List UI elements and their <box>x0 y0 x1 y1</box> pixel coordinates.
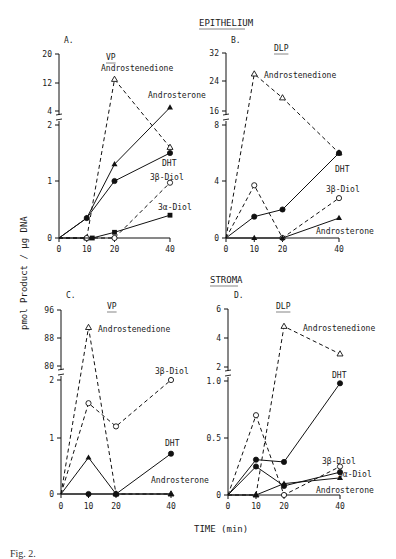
3beta-diol-marker-icon <box>253 413 258 418</box>
series-label-dht: DHT <box>335 165 350 174</box>
androsterone-marker-icon <box>167 104 173 109</box>
y-tick-label: 32 <box>209 49 219 58</box>
series-label-3beta-diol: 3β-Diol <box>322 457 356 466</box>
y-tick-label: 4 <box>216 334 221 343</box>
dht-marker-icon <box>252 214 257 219</box>
dht-marker-icon <box>112 178 117 183</box>
dht-marker-icon <box>281 459 286 464</box>
panel-c-stroma-vp: 0128088960102040C.VPAndrostenedione3β-Di… <box>44 291 209 511</box>
androsterone-marker-icon <box>86 454 92 459</box>
series-label-androstenedione: Androstenedione <box>98 325 170 334</box>
y-tick-label: 1.0 <box>207 377 222 386</box>
androstenedione-marker-icon <box>86 324 92 329</box>
3alpha-diol-marker-icon <box>168 213 173 218</box>
section-title-stroma: STROMA <box>210 275 243 285</box>
androstenedione-marker-icon <box>280 95 286 100</box>
panel-title: VP <box>106 53 116 62</box>
androsterone-marker-icon <box>336 215 342 220</box>
panel-title: VP <box>107 302 117 311</box>
y-tick-label: 20 <box>42 50 52 59</box>
panel-letter: D. <box>234 291 244 300</box>
series-3alpha-diol: 3α-Diol <box>59 203 192 240</box>
dht-marker-icon <box>337 381 342 386</box>
panel-letter: A. <box>64 36 74 45</box>
series-label-androsterone: Androsterone <box>316 227 374 236</box>
y-tick-label: 0 <box>47 234 52 243</box>
dht-marker-icon <box>86 491 91 496</box>
series-3beta-diol: 3β-Diol <box>228 413 356 498</box>
y-tick-label: 16 <box>209 107 219 116</box>
series-label-3alpha-diol: 3α-Diol <box>158 203 192 212</box>
x-tick-label: 40 <box>165 245 175 254</box>
axis-break-icon <box>225 370 231 371</box>
x-tick-label: 0 <box>226 502 231 511</box>
y-tick-label: 80 <box>44 362 54 371</box>
x-tick-label: 10 <box>249 245 259 254</box>
y-tick-label: 0 <box>216 491 221 500</box>
series-androstenedione: Androstenedione <box>226 71 342 238</box>
3beta-diol-marker-icon <box>281 492 286 497</box>
y-tick-label: 6 <box>216 305 221 314</box>
series-label-dht: DHT <box>165 439 180 448</box>
y-tick-label: 4 <box>47 107 52 116</box>
series-label-3beta-diol: 3β-Diol <box>326 185 360 194</box>
series-androsterone: Androsterone <box>59 91 206 238</box>
y-tick-label: 24 <box>209 77 219 86</box>
series-label-androstenedione: Androstenedione <box>101 64 173 73</box>
dht-marker-icon <box>168 451 173 456</box>
section-title-epithelium: EPITHELIUM <box>199 18 254 28</box>
3alpha-diol-marker-icon <box>253 464 258 469</box>
y-tick-label: 2 <box>49 376 54 385</box>
series-dht: DHT <box>59 150 177 238</box>
panel-title: DLP <box>276 302 291 311</box>
x-tick-label: 20 <box>278 245 288 254</box>
series-androstenedione: Androstenedione <box>61 324 174 496</box>
series-dht: DHT <box>226 150 350 238</box>
panel-letter: B. <box>231 36 241 45</box>
3alpha-diol-marker-icon <box>90 236 95 241</box>
x-tick-label: 20 <box>111 502 121 511</box>
axis-break-icon <box>56 114 62 115</box>
y-tick-label: 8 <box>214 121 219 130</box>
figure-caption: Fig. 2. <box>10 548 36 559</box>
series-androsterone: Androsterone <box>61 454 209 496</box>
y-tick-label: 0 <box>214 234 219 243</box>
panel-d-stroma-dlp: 00.51.02460102040D.DLPAndrostenedioneDHT… <box>207 291 376 511</box>
dht-marker-icon <box>253 457 258 462</box>
y-tick-label: 2 <box>216 363 221 372</box>
y-tick-label: 1 <box>49 434 54 443</box>
x-axis-label: TIME (min) <box>194 524 248 534</box>
axis-break-icon <box>58 369 64 370</box>
3beta-diol-marker-icon <box>168 377 173 382</box>
y-tick-label: 4 <box>214 177 219 186</box>
x-tick-label: 10 <box>82 245 92 254</box>
panel-letter: C. <box>66 291 76 300</box>
x-tick-label: 10 <box>251 502 261 511</box>
series-label-androsterone: Androsterone <box>316 486 374 495</box>
x-tick-label: 40 <box>335 502 345 511</box>
y-tick-label: 96 <box>44 306 54 315</box>
dht-marker-icon <box>84 215 89 220</box>
androsterone-marker-icon <box>168 491 174 496</box>
y-tick-label: 2 <box>47 121 52 130</box>
panel-b-epithelium-dlp: 0481624320102040B.DLPAndrostenedioneDHT3… <box>209 36 374 254</box>
y-axis-label: pmol Product / µg DNA <box>19 216 29 330</box>
y-tick-label: 1 <box>47 177 52 186</box>
3beta-diol-marker-icon <box>112 235 117 240</box>
x-tick-label: 20 <box>279 502 289 511</box>
y-tick-label: 0 <box>49 490 54 499</box>
dht-marker-icon <box>336 150 341 155</box>
3alpha-diol-marker-icon <box>112 230 117 235</box>
series-label-dht: DHT <box>162 159 177 168</box>
series-label-androstenedione: Androstenedione <box>264 71 336 80</box>
series-3beta-diol: 3β-Diol <box>61 367 189 494</box>
y-tick-label: 0.5 <box>207 434 222 443</box>
series-label-3beta-diol: 3β-Diol <box>155 367 189 376</box>
series-label-dht: DHT <box>332 371 347 380</box>
y-tick-label: 12 <box>42 79 52 88</box>
3beta-diol-marker-icon <box>252 183 257 188</box>
series-label-androsterone: Androsterone <box>148 91 206 100</box>
3beta-diol-marker-icon <box>86 401 91 406</box>
axis-break-icon <box>223 114 229 115</box>
